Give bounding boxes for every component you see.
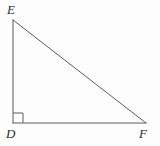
vertex-label-e: E	[7, 3, 15, 16]
triangle-hypotenuse-EF	[13, 20, 146, 123]
vertex-label-d: D	[6, 127, 15, 140]
vertex-label-f: F	[139, 127, 147, 140]
right-triangle-figure: E D F	[0, 0, 160, 146]
triangle-svg	[0, 0, 160, 146]
right-angle-marker-icon	[13, 113, 23, 123]
triangle-outline	[13, 20, 146, 123]
